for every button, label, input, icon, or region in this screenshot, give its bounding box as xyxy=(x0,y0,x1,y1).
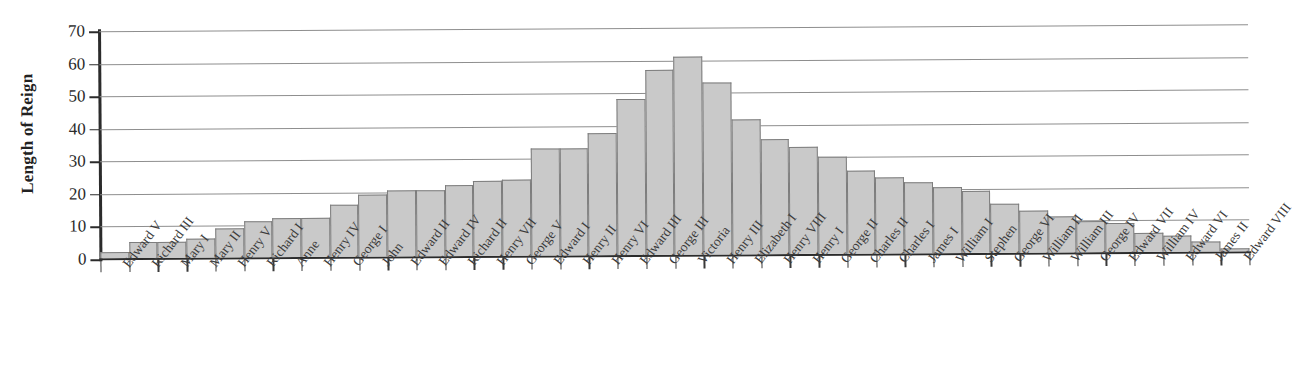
x-axis-label: Edward II xyxy=(407,259,420,269)
x-axis-label: James II xyxy=(1211,254,1224,264)
y-tick-label-0: 0 xyxy=(78,249,87,269)
x-axis-label: George II xyxy=(838,257,851,267)
x-axis-label: Mary I xyxy=(177,261,190,271)
x-axis-label: William I xyxy=(953,256,966,266)
x-axis-label: Richard I xyxy=(263,260,276,270)
x-axis-label: William II xyxy=(1039,256,1052,266)
x-axis-label: Henry VII xyxy=(493,259,506,269)
x-axis-label: Anne xyxy=(292,260,305,270)
x-axis-label: Edward IV xyxy=(436,259,449,269)
x-axis-label: Henry IV xyxy=(321,260,334,270)
x-axis-label: Elizabeth I xyxy=(752,257,765,267)
y-tick-label-10: 10 xyxy=(69,217,86,237)
bar-chart: Length of Reign 010203040506070 Edward V… xyxy=(0,0,1266,375)
y-tick-label-30: 30 xyxy=(69,152,86,172)
y-tick-label-70: 70 xyxy=(68,21,85,41)
x-axis-label: Henry VI xyxy=(608,258,621,268)
x-axis-label: Edward VI xyxy=(1183,255,1196,265)
x-axis-labels: Edward VRichard IIIMary IMary IIHenry VR… xyxy=(99,254,1250,375)
y-tick-mark-20 xyxy=(90,194,100,196)
x-axis-label: Charles II xyxy=(867,257,880,267)
y-tick-mark-40 xyxy=(90,129,100,131)
x-axis-label: John xyxy=(378,260,391,270)
y-tick-mark-50 xyxy=(89,96,99,98)
x-axis-label: Edward III xyxy=(637,258,650,268)
x-axis-label: James I xyxy=(924,256,937,266)
x-axis-label: Stephen xyxy=(982,256,995,266)
x-axis-label: Henry V xyxy=(235,260,248,270)
x-axis-label: George IV xyxy=(1096,255,1109,265)
x-axis-label: George VI xyxy=(1010,256,1023,266)
x-axis-label: Richard III xyxy=(149,261,162,271)
y-tick-mark-30 xyxy=(90,162,100,164)
x-axis-label: Henry I xyxy=(809,257,822,267)
y-axis-title: Length of Reign xyxy=(17,14,38,254)
x-axis-label: Edward V xyxy=(120,261,133,271)
x-axis-label: Henry II xyxy=(579,258,592,268)
x-axis-label: Richard II xyxy=(464,259,477,269)
y-tick-label-50: 50 xyxy=(68,86,85,106)
x-axis-label: Henry III xyxy=(723,257,736,267)
y-tick-label-60: 60 xyxy=(68,54,85,74)
x-axis-label: George I xyxy=(350,260,363,270)
x-axis-label: William III xyxy=(1068,255,1081,265)
x-axis-label: Victoria xyxy=(694,258,707,268)
y-tick-mark-60 xyxy=(89,64,99,66)
y-tick-label-40: 40 xyxy=(69,119,86,139)
x-axis-label: George III xyxy=(666,258,679,268)
y-tick-mark-10 xyxy=(90,227,100,229)
x-axis-label: Edward VIII xyxy=(1240,254,1253,264)
x-axis-label: Charles I xyxy=(895,256,908,266)
x-axis-label: Edward I xyxy=(551,259,564,269)
x-axis-label: George V xyxy=(522,259,535,269)
x-axis-label: William IV xyxy=(1154,255,1167,265)
x-axis-label: Edward VII xyxy=(1125,255,1138,265)
x-axis-label: Mary II xyxy=(206,261,219,271)
y-tick-mark-70 xyxy=(89,31,99,33)
y-tick-label-20: 20 xyxy=(69,184,86,204)
x-axis-label: Henry VIII xyxy=(780,257,793,267)
